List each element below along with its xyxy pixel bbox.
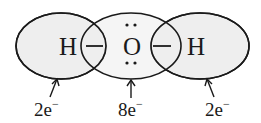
atom-oxygen: O	[123, 33, 141, 60]
arrow-right	[205, 79, 214, 97]
electron-count-oxygen: 8e−	[118, 97, 143, 120]
water-lewis-diagram: H O H 2e− 8e− 2e−	[0, 0, 261, 123]
atom-hydrogen-right: H	[187, 33, 205, 60]
electron-count-hydrogen-right: 2e−	[205, 97, 230, 120]
arrow-middle	[127, 80, 135, 98]
atom-hydrogen-left: H	[59, 33, 77, 60]
arrow-left	[50, 79, 59, 97]
electron-count-hydrogen-left: 2e−	[34, 97, 59, 120]
